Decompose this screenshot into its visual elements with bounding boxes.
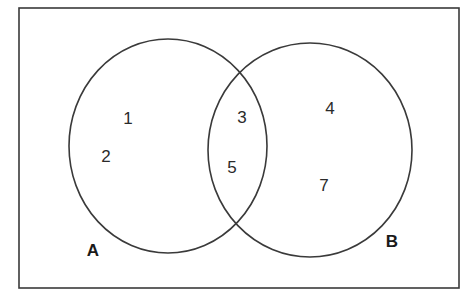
element-1: 1 (123, 110, 132, 127)
set-a-circle (69, 39, 267, 253)
element-4: 4 (325, 100, 334, 117)
element-5: 5 (227, 159, 236, 176)
set-a-label: A (87, 242, 99, 259)
set-b-circle (208, 43, 412, 257)
set-b-label: B (386, 233, 398, 250)
venn-diagram (0, 0, 476, 303)
element-2: 2 (101, 148, 110, 165)
element-7: 7 (319, 177, 328, 194)
element-3: 3 (237, 109, 246, 126)
